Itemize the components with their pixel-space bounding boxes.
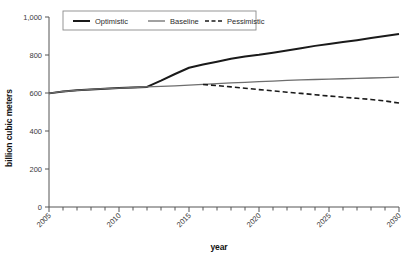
chart-figure: billion cubic meters year 02004006008001…: [0, 0, 410, 258]
y-tick-label: 1,000: [23, 13, 42, 22]
x-tick-label: 2025: [315, 211, 333, 229]
y-axis-ticks: 02004006008001,000: [23, 13, 49, 212]
y-tick-label: 600: [29, 89, 42, 98]
x-tick-label: 2015: [175, 211, 193, 229]
legend-label-pessimistic: Pessimistic: [227, 17, 265, 26]
y-tick-label: 200: [29, 165, 42, 174]
y-axis-title: billion cubic meters: [4, 89, 14, 167]
legend-label-baseline: Baseline: [170, 17, 199, 26]
data-series-layer: [49, 34, 399, 103]
y-tick-label: 0: [38, 203, 42, 212]
x-tick-label: 2020: [245, 211, 263, 229]
x-tick-label: 2030: [385, 211, 403, 229]
series-line-baseline: [49, 77, 399, 93]
y-tick-label: 800: [29, 51, 42, 60]
legend-label-optimistic: Optimistic: [95, 17, 128, 26]
series-line-pessimistic: [203, 84, 399, 103]
y-tick-label: 400: [29, 127, 42, 136]
line-chart: billion cubic meters year 02004006008001…: [0, 0, 410, 258]
chart-legend: OptimisticBaselinePessimistic: [63, 11, 265, 30]
x-tick-label: 2005: [35, 211, 53, 229]
x-axis-title: year: [210, 242, 228, 252]
series-line-optimistic: [49, 34, 399, 93]
x-axis-ticks: 200520102015202020252030: [35, 207, 403, 229]
x-tick-label: 2010: [105, 211, 123, 229]
